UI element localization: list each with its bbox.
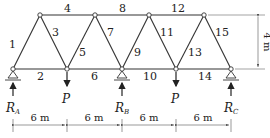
member-label-12: 12 xyxy=(171,2,185,15)
member-label-3: 3 xyxy=(52,26,59,39)
member-label-7: 7 xyxy=(107,26,114,39)
support-b xyxy=(114,71,130,80)
member-15 xyxy=(204,15,231,69)
reaction-arrows xyxy=(13,83,231,96)
member-label-10: 10 xyxy=(143,70,157,83)
span-label-3: 6 m xyxy=(139,112,159,123)
member-label-13: 13 xyxy=(188,46,202,59)
member-11 xyxy=(149,15,176,69)
member-label-15: 15 xyxy=(215,26,229,39)
member-13 xyxy=(176,15,204,69)
member-7 xyxy=(95,15,122,69)
load-label-1: P xyxy=(61,92,71,106)
member-label-8: 8 xyxy=(119,2,126,15)
support-c xyxy=(223,71,239,80)
member-label-14: 14 xyxy=(198,70,212,83)
load-label-2: P xyxy=(170,92,180,106)
truss-members xyxy=(13,15,231,69)
member-3 xyxy=(40,15,67,69)
height-label: 4 m xyxy=(262,32,270,52)
member-label-2: 2 xyxy=(37,70,44,83)
member-label-11: 11 xyxy=(160,26,174,39)
reaction-label-c: RC xyxy=(223,101,239,116)
span-label-1: 6 m xyxy=(30,112,50,123)
reaction-label-a: RA xyxy=(5,101,20,116)
member-label-5: 5 xyxy=(79,46,86,59)
member-9 xyxy=(122,15,149,69)
truss-diagram: 4 m P P xyxy=(0,0,270,138)
member-1 xyxy=(13,15,40,69)
member-label-9: 9 xyxy=(134,46,141,59)
reaction-label-b: RB xyxy=(114,101,129,116)
member-label-6: 6 xyxy=(91,70,98,83)
member-label-4: 4 xyxy=(64,2,71,15)
member-5 xyxy=(67,15,95,69)
member-label-1: 1 xyxy=(9,38,16,51)
joints xyxy=(11,13,233,71)
support-a xyxy=(5,71,21,80)
span-label-4: 6 m xyxy=(193,112,213,123)
span-label-2: 6 m xyxy=(84,112,104,123)
